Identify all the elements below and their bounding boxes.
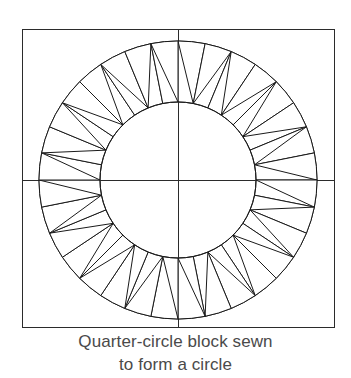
quarter-circle-block-figure: Quarter-circle block sewn to form a circ… [0,0,351,378]
caption-line-2: to form a circle [0,353,351,376]
circle-block-diagram [0,0,351,378]
caption-line-1: Quarter-circle block sewn [0,330,351,353]
diagram-root [22,29,335,328]
figure-caption: Quarter-circle block sewn to form a circ… [0,330,351,376]
